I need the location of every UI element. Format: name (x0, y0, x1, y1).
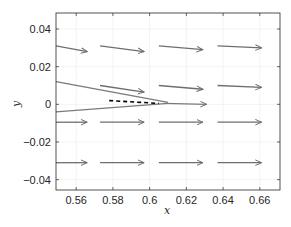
quiver-plot: 0.560.580.60.620.640.66−0.04−0.0200.020.… (0, 0, 291, 227)
y-tick-label: 0.04 (30, 23, 51, 35)
x-axis-label: x (164, 204, 171, 217)
y-axis-label: y (10, 100, 23, 108)
x-tick-label: 0.64 (212, 194, 233, 206)
x-tick-label: 0.58 (102, 194, 123, 206)
y-tick-label: −0.02 (23, 136, 51, 148)
x-tick-label: 0.62 (176, 194, 197, 206)
x-tick-label: 0.56 (65, 194, 86, 206)
center-trajectory-line (164, 103, 206, 104)
y-tick-label: 0.02 (30, 61, 51, 73)
plot-background (56, 13, 280, 190)
y-tick-label: 0 (45, 98, 51, 110)
y-tick-label: −0.04 (23, 174, 51, 186)
plot-area (56, 13, 280, 190)
x-tick-label: 0.66 (249, 194, 270, 206)
x-tick-label: 0.6 (142, 194, 157, 206)
